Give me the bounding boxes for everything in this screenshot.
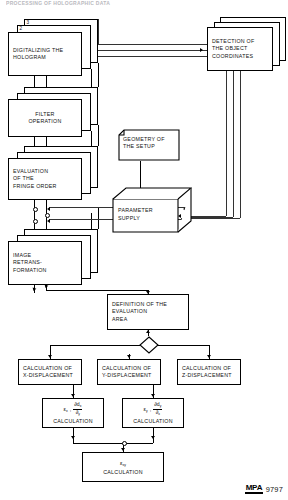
digitalizing-stack-label-2: 2 bbox=[19, 26, 23, 31]
branch-diamond[interactable] bbox=[139, 336, 159, 358]
digitalizing-line-1: DIGITALIZING THE bbox=[13, 47, 77, 54]
geometry-line-2: THE SETUP bbox=[123, 143, 165, 150]
epsilon-x-formula: εx , ∂dx ∂y bbox=[64, 402, 83, 415]
filter-line-1: FILTER bbox=[13, 111, 77, 118]
arrow-retrans-out-a bbox=[31, 287, 36, 291]
footer: MPA 9797 bbox=[245, 483, 283, 494]
rail-det-down-2 bbox=[233, 66, 234, 217]
epsilon-x-symbol: εx bbox=[64, 406, 68, 413]
parameter-line-1: PARAMETER bbox=[118, 207, 153, 215]
epsilon-y-caption: CALCULATION bbox=[133, 418, 172, 424]
arrow-to-calc-y bbox=[127, 355, 131, 358]
node-image-retransformation[interactable]: IMAGE RETRANS- FORMATION bbox=[8, 241, 82, 285]
parameter-line-2: SUPPLY bbox=[118, 215, 153, 223]
fringe-line-3: FRINGE ORDER bbox=[13, 183, 77, 190]
node-epsilon-xy-calculation[interactable]: εxy CALCULATION bbox=[82, 452, 164, 482]
digitalizing-line-2: HOLOGRAM bbox=[13, 54, 77, 61]
node-calculation-x-displacement[interactable]: CALCULATION OF X-DISPLACEMENT bbox=[18, 359, 82, 385]
filter-line-2: OPERATION bbox=[13, 118, 77, 125]
node-detection-object-coordinates[interactable]: DETECTION OF THE OBJECT COORDINATES bbox=[207, 27, 273, 71]
arrow-to-calc-x bbox=[48, 355, 52, 358]
node-definition-evaluation-area[interactable]: DEFINITION OF THE EVALUATION AREA bbox=[107, 294, 189, 330]
node-epsilon-y-calculation[interactable]: εy , ∂dy ∂x CALCULATION bbox=[122, 398, 184, 428]
epsilon-xy-formula: εxy bbox=[120, 460, 126, 467]
junction-dot-epsilon bbox=[122, 441, 127, 446]
arrow-param-to-fringe-1 bbox=[47, 207, 50, 211]
definition-line-1: DEFINITION OF THE bbox=[112, 301, 184, 308]
calc-z-line-2: Z-DISPLACEMENT bbox=[182, 372, 236, 379]
detection-line-1: DETECTION OF bbox=[212, 38, 268, 45]
retrans-line-1: IMAGE bbox=[13, 252, 77, 259]
calc-z-line-1: CALCULATION OF bbox=[182, 365, 236, 372]
conn-eps-crossbar bbox=[73, 443, 153, 444]
arrow-calcx-epsx bbox=[71, 394, 75, 397]
conn-fringe-loop-v1 bbox=[98, 125, 99, 146]
arrow-to-calc-z bbox=[207, 355, 211, 358]
epsilon-y-formula: εy , ∂dy ∂x bbox=[144, 402, 163, 415]
fringe-line-2: OF THE bbox=[13, 175, 77, 182]
diagram-canvas: PROCESSING OF HOLOGRAPHIC DATA 3 2 DIGIT… bbox=[0, 0, 288, 500]
definition-line-3: AREA bbox=[112, 316, 184, 323]
arrow-epsy-down bbox=[151, 436, 155, 439]
calc-x-line-1: CALCULATION OF bbox=[23, 365, 77, 372]
node-digitalizing-hologram[interactable]: DIGITALIZING THE HOLOGRAM bbox=[8, 32, 82, 76]
rail-det-down-3 bbox=[240, 61, 241, 218]
junction-dot-1 bbox=[33, 207, 38, 212]
clipped-header-text: PROCESSING OF HOLOGRAPHIC DATA bbox=[6, 0, 206, 6]
node-fringe-order-evaluation[interactable]: EVALUATION OF THE FRINGE ORDER bbox=[8, 158, 82, 200]
conn-retrans-to-definition-h bbox=[46, 290, 148, 291]
arrow-retrans-out-b bbox=[43, 284, 48, 288]
figure-number: 9797 bbox=[266, 485, 283, 494]
detection-line-2: THE OBJECT bbox=[212, 45, 268, 52]
junction-dot-2 bbox=[33, 219, 38, 224]
calc-y-line-2: Y-DISPLACEMENT bbox=[102, 372, 156, 379]
conn-retrans-loop-v1 bbox=[98, 207, 99, 229]
node-calculation-z-displacement[interactable]: CALCULATION OF Z-DISPLACEMENT bbox=[177, 359, 241, 385]
geometry-line-1: GEOMETRY OF bbox=[123, 136, 165, 143]
mpa-logo: MPA bbox=[245, 483, 263, 494]
arrow-epsx-down bbox=[71, 436, 75, 439]
rail-det-down-1 bbox=[226, 71, 227, 216]
retrans-line-2: RETRANS- bbox=[13, 259, 77, 266]
arrow-definition-diamond bbox=[146, 330, 150, 333]
arrow-into-detection bbox=[200, 48, 203, 52]
node-geometry-of-setup[interactable]: GEOMETRY OF THE SETUP bbox=[118, 129, 180, 161]
junction-dot-3 bbox=[45, 213, 50, 218]
arrow-param-to-fringe-2 bbox=[47, 219, 50, 223]
calc-x-line-2: X-DISPLACEMENT bbox=[23, 372, 77, 379]
rail-top-3 bbox=[82, 56, 207, 57]
calc-y-line-1: CALCULATION OF bbox=[102, 365, 156, 372]
conn-filter-loop-v1 bbox=[98, 63, 99, 87]
retrans-line-3: FORMATION bbox=[13, 267, 77, 274]
fringe-line-1: EVALUATION bbox=[13, 168, 77, 175]
epsilon-y-fraction: ∂dy ∂x bbox=[153, 402, 162, 415]
rail-top-1 bbox=[82, 44, 207, 45]
digitalizing-stack-label-3: 3 bbox=[26, 20, 30, 25]
epsilon-xy-symbol: εxy bbox=[120, 460, 126, 467]
epsilon-y-symbol: εy bbox=[144, 406, 148, 413]
rail-top-2 bbox=[82, 50, 207, 51]
epsilon-x-caption: CALCULATION bbox=[53, 418, 92, 424]
node-calculation-y-displacement[interactable]: CALCULATION OF Y-DISPLACEMENT bbox=[97, 359, 161, 385]
node-epsilon-x-calculation[interactable]: εx , ∂dx ∂y CALCULATION bbox=[42, 398, 104, 428]
arrow-calcy-epsy bbox=[151, 394, 155, 397]
epsilon-x-fraction: ∂dx ∂y bbox=[73, 402, 82, 415]
epsilon-xy-caption: CALCULATION bbox=[103, 469, 142, 475]
node-filter-operation[interactable]: FILTER OPERATION bbox=[8, 99, 82, 137]
conn-diamond-left bbox=[50, 345, 149, 346]
node-parameter-supply[interactable]: PARAMETER SUPPLY bbox=[112, 187, 192, 233]
detection-line-3: COORDINATES bbox=[212, 53, 268, 60]
arrow-into-epsilon-xy bbox=[121, 448, 125, 451]
definition-line-2: EVALUATION bbox=[112, 308, 184, 315]
rail-top-return-v1 bbox=[98, 19, 99, 44]
